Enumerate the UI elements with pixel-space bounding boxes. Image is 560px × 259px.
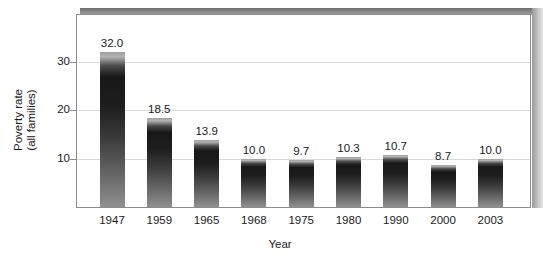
x-axis-tick-label: 1975 [276, 214, 326, 226]
bar [383, 155, 408, 207]
x-axis-tick-label: 1959 [134, 214, 184, 226]
bar-value-label: 10.0 [229, 144, 279, 156]
bar [147, 118, 172, 207]
y-axis-tick-mark [70, 62, 76, 63]
bar-value-label: 32.0 [87, 37, 137, 49]
y-axis-tick-mark [70, 110, 76, 111]
bar [241, 159, 266, 207]
bar-value-label: 10.0 [465, 144, 515, 156]
y-axis-tick-label: 20 [30, 104, 70, 115]
bar [100, 52, 125, 207]
x-axis-tick-label: 1990 [371, 214, 421, 226]
y-axis-tick-label: 30 [30, 56, 70, 67]
bar [194, 140, 219, 207]
x-axis-tick-label: 2003 [465, 214, 515, 226]
bar-value-label: 18.5 [134, 103, 184, 115]
bar [431, 165, 456, 207]
poverty-rate-bar-chart: Poverty rate (all families) 102030 32.01… [0, 0, 560, 259]
bar [336, 157, 361, 207]
y-axis-tick-mark [70, 159, 76, 160]
bar-value-label: 13.9 [182, 125, 232, 137]
gridline [77, 62, 530, 63]
x-axis-tick-label: 2000 [418, 214, 468, 226]
x-axis-tick-label: 1965 [182, 214, 232, 226]
bar [289, 160, 314, 207]
x-axis-tick-label: 1968 [229, 214, 279, 226]
y-axis-tick-label: 10 [30, 153, 70, 164]
bar-value-label: 9.7 [276, 145, 326, 157]
x-axis-title: Year [0, 238, 560, 250]
x-axis-tick-label: 1947 [87, 214, 137, 226]
bar-value-label: 10.7 [371, 140, 421, 152]
bar [478, 159, 503, 207]
x-axis-tick-label: 1980 [324, 214, 374, 226]
bar-value-label: 10.3 [324, 142, 374, 154]
frame-shadow-right [532, 8, 543, 208]
bar-value-label: 8.7 [418, 150, 468, 162]
y-axis-title-line1: Poverty rate [12, 74, 25, 166]
